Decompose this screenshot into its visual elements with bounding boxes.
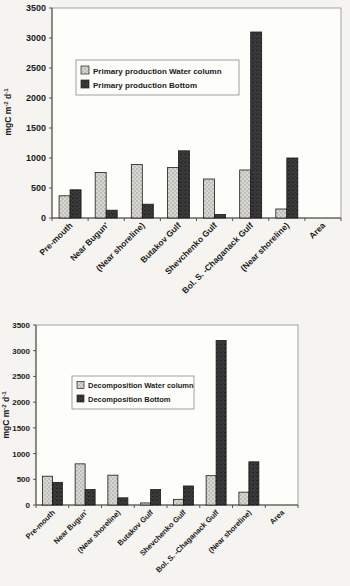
bar-s1-c5 [216,340,226,505]
y-tick-label: 1000 [12,450,30,459]
bar-s0-c0 [59,196,70,218]
bar-s0-c3 [141,503,151,505]
bar-s1-c1 [106,210,117,218]
x-category-labels: Pre-mouthNear Bugun'(Near shoreline)Buta… [24,507,287,574]
y-tick-label: 3000 [26,33,46,43]
bottom-swatch-icon [81,80,89,88]
y-tick-label: 3500 [26,3,46,13]
water-column-swatch-icon [77,382,84,389]
y-axis-title: mgC m-2 d-1 [3,88,13,136]
bar-s1-c0 [52,482,62,505]
bar-s1-c4 [183,486,193,505]
y-tick-label: 500 [17,475,31,484]
primary-production-chart: 0500100015002000250030003500 Pre-mouthNe… [0,0,350,310]
y-axis-title: mgC m-2 d-1 [1,391,11,439]
x-category-labels: Pre-mouthNear Bugun'(Near shoreline)Buta… [37,220,327,295]
bar-s1-c3 [151,490,161,505]
bar-s0-c2 [108,475,118,505]
y-tick-label: 2500 [26,63,46,73]
bar-s1-c4 [215,214,226,218]
water-column-swatch-icon [81,66,89,74]
bar-s1-c1 [85,490,95,505]
y-tick-label: 1500 [12,424,30,433]
x-category-label: Area [307,220,328,241]
legend-box [76,60,239,95]
y-tick-label: 3000 [12,347,30,356]
bar-s0-c6 [239,492,249,505]
legend: Primary production Water column Primary … [76,60,239,95]
bar-s1-c3 [178,151,189,218]
x-category-label: Area [268,507,287,526]
bar-s1-c0 [70,190,81,218]
y-tick-label: 2000 [12,398,30,407]
y-tick-label: 0 [41,213,46,223]
y-tick-label: 1000 [26,153,46,163]
legend-label-bottom: Primary production Bottom [93,81,197,90]
bar-s1-c5 [251,32,262,218]
y-tick-label: 3500 [12,321,30,330]
x-category-label: Pre-mouth [24,508,57,541]
y-tick-label: 2500 [12,372,30,381]
y-tick-label: 0 [26,501,31,510]
decomposition-plot: 0500100015002000250030003500 Pre-mouthNe… [0,310,350,586]
scanned-figure-page: 0500100015002000250030003500 Pre-mouthNe… [0,0,350,586]
y-axis: 0500100015002000250030003500 [12,321,36,510]
y-tick-label: 2000 [26,93,46,103]
bar-s1-c6 [287,158,298,218]
y-tick-label: 1500 [26,123,46,133]
primary-production-plot: 0500100015002000250030003500 Pre-mouthNe… [0,0,350,310]
bottom-swatch-icon [77,395,84,402]
bar-s0-c1 [75,464,85,505]
decomposition-chart: 0500100015002000250030003500 Pre-mouthNe… [0,310,350,586]
bar-s1-c2 [142,204,153,218]
x-category-label: Bol. S. -Chaganack Gulf [154,508,221,575]
bar-s0-c4 [204,179,215,218]
x-category-label: Bol. S. -Chaganack Gulf [180,220,255,295]
legend-label-water: Primary production Water column [93,67,222,76]
legend: Decomposition Water column Decomposition… [72,376,194,409]
bar-s0-c3 [167,168,178,218]
legend-label-bottom: Decomposition Bottom [88,395,171,404]
x-category-label: Pre-mouth [37,220,74,257]
bar-s1-c2 [118,498,128,505]
bar-s0-c2 [131,165,142,218]
bar-s0-c0 [42,476,52,505]
bar-s0-c5 [240,170,251,218]
y-axis: 0500100015002000250030003500 [26,3,52,223]
bar-s0-c6 [276,209,287,218]
bar-s0-c1 [95,172,106,218]
legend-label-water: Decomposition Water column [88,381,194,390]
y-tick-label: 500 [31,183,46,193]
bar-s1-c6 [249,462,259,505]
bar-s0-c4 [173,499,183,505]
bar-s0-c5 [206,476,216,505]
